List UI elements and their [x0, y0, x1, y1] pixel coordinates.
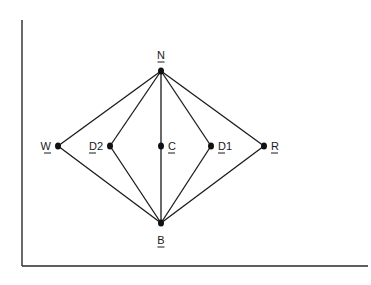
node-label-c: C	[168, 140, 176, 152]
edge-n-d2	[110, 71, 161, 146]
edge-b-d2	[110, 146, 161, 223]
node-b	[158, 219, 164, 226]
edge-n-r	[161, 71, 264, 146]
edge-n-w	[58, 71, 161, 146]
node-d2	[107, 142, 113, 149]
edge-b-r	[161, 146, 264, 223]
node-r	[261, 142, 267, 149]
node-label-n: N	[157, 49, 165, 61]
edge-b-d1	[161, 146, 211, 223]
node-label-b: B	[157, 234, 164, 246]
node-n	[158, 67, 164, 74]
node-label-r: R	[271, 140, 279, 152]
axes	[22, 20, 368, 266]
node-label-w: W	[41, 140, 52, 152]
node-label-d1: D1	[218, 140, 232, 152]
node-w	[55, 142, 61, 149]
edge-n-d1	[161, 71, 211, 146]
node-d1	[208, 142, 214, 149]
node-c	[158, 142, 164, 149]
node-label-d2: D2	[89, 140, 103, 152]
edge-b-w	[58, 146, 161, 223]
lattice-diagram: NWD2CD1RB	[0, 0, 371, 285]
